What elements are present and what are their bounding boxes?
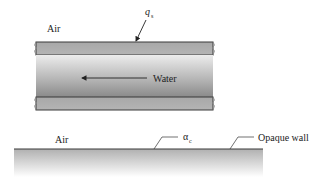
absorptivity-label: α c [183, 131, 192, 144]
pipe-section [35, 42, 215, 110]
pipe-bottom-wall [36, 97, 213, 110]
pipe-top-wall [36, 42, 213, 55]
opaque-wall-label: Opaque wall [258, 132, 309, 143]
absorptivity-subscript: c [189, 138, 192, 144]
heat-flux-subscript: s [151, 13, 154, 19]
diagram-canvas: Air q s Water Air α c Opaque wall [0, 0, 329, 182]
heat-flux-label: q s [145, 6, 154, 19]
opaque-wall-leader [230, 137, 254, 149]
absorptivity-leader [154, 137, 178, 149]
lower-air-label: Air [55, 134, 69, 145]
water-channel [36, 55, 213, 97]
water-label: Water [153, 73, 177, 84]
opaque-wall-body [14, 149, 263, 177]
heat-flux-arrow [136, 20, 146, 41]
upper-air-label: Air [47, 23, 61, 34]
heat-flux-symbol: q [145, 6, 150, 17]
